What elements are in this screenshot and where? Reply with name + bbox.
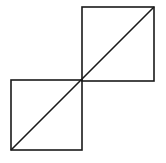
two-squares-diagonal-diagram [0, 0, 166, 163]
